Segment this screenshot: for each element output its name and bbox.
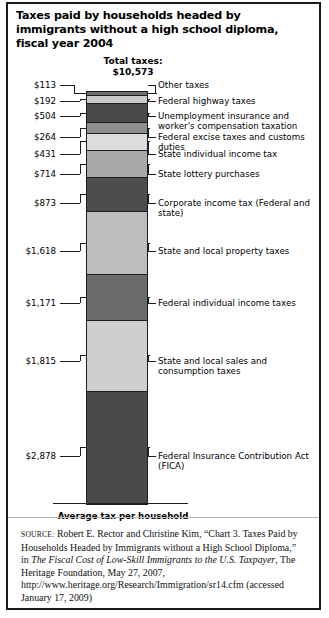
value-label: $1,618 [10, 247, 56, 256]
leader-line [148, 355, 150, 356]
bar-segment [87, 104, 147, 124]
page-title: Taxes paid by households headed by immig… [16, 9, 312, 51]
leader-line [60, 101, 80, 102]
value-label: $264 [10, 133, 56, 142]
leader-line [155, 85, 156, 93]
leader-line [80, 128, 86, 129]
value-label: $1,815 [10, 357, 56, 366]
source-note: SOURCE: Robert E. Rector and Christine K… [21, 528, 303, 605]
leader-line [80, 447, 86, 448]
bar-segment [87, 392, 147, 504]
figure-container: Taxes paid by households headed by immig… [6, 2, 321, 610]
leader-line [60, 251, 80, 252]
category-label: State individual income tax [158, 149, 320, 159]
value-label: $504 [10, 112, 56, 121]
leader-line [60, 116, 80, 117]
bar-segment [87, 96, 147, 103]
leader-line [148, 141, 149, 154]
leader-line [80, 194, 86, 195]
category-label: Other taxes [158, 80, 320, 90]
leader-line [80, 113, 86, 114]
baseline-axis [53, 503, 188, 504]
leader-line [60, 137, 80, 138]
leader-line [80, 164, 86, 165]
leader-line [60, 85, 74, 86]
value-label: $431 [10, 150, 56, 159]
source-divider [8, 517, 319, 518]
leader-line [148, 164, 150, 165]
leader-line [148, 251, 156, 252]
leader-line [80, 128, 81, 137]
leader-line [148, 154, 156, 155]
leader-line [60, 361, 80, 362]
leader-line [60, 174, 80, 175]
leader-line [80, 355, 86, 356]
category-label: Federal individual income taxes [158, 298, 320, 308]
leader-line [60, 154, 80, 155]
category-label: State lottery purchases [158, 169, 320, 179]
stacked-bar [86, 91, 148, 505]
category-label: Corporate income tax (Federal and state) [158, 198, 320, 218]
leader-line [148, 174, 156, 175]
figure-title-block: Taxes paid by households headed by immig… [16, 9, 312, 51]
leader-line [148, 164, 149, 174]
leader-line [80, 447, 81, 456]
bar-segment [87, 123, 147, 133]
source-title-italic: The Fiscal Cost of Low-Skill Immigrants … [31, 554, 275, 565]
leader-line [148, 141, 150, 142]
total-taxes-label: Total taxes: [68, 56, 198, 67]
leader-line [148, 137, 156, 138]
leader-line [80, 297, 86, 298]
leader-line [60, 456, 80, 457]
leader-line [74, 85, 75, 93]
category-label: Federal Insurance Contribution Act (FICA… [158, 451, 320, 471]
value-label: $192 [10, 97, 56, 106]
value-label: $714 [10, 170, 56, 179]
leader-line [80, 141, 81, 154]
leader-line [148, 243, 150, 244]
chart-area: Total taxes: $10,573 $113$192$504$264$43… [8, 56, 319, 506]
bar-segment [87, 151, 147, 179]
bar-segment [87, 321, 147, 392]
value-label: $1,171 [10, 299, 56, 308]
leader-line [148, 447, 149, 456]
leader-line [148, 194, 150, 195]
total-taxes-value: $10,573 [68, 67, 198, 78]
leader-line [148, 203, 156, 204]
total-taxes-callout: Total taxes: $10,573 [68, 56, 198, 78]
leader-line [74, 93, 86, 94]
bar-segment [87, 212, 147, 275]
leader-line [80, 141, 86, 142]
category-label: State and local property taxes [158, 246, 320, 256]
leader-line [148, 116, 156, 117]
leader-line [148, 93, 157, 94]
leader-line [148, 447, 150, 448]
leader-line [80, 243, 86, 244]
leader-line [148, 194, 149, 203]
bar-segment [87, 134, 147, 151]
category-label: State and local sales and consumption ta… [158, 356, 320, 376]
leader-line [148, 243, 149, 251]
leader-line [80, 99, 86, 100]
leader-line [80, 164, 81, 174]
leader-line [148, 113, 150, 114]
leader-line [148, 297, 150, 298]
value-label: $873 [10, 199, 56, 208]
category-label: Federal highway taxes [158, 96, 320, 106]
leader-line [148, 456, 156, 457]
leader-line [60, 203, 80, 204]
leader-line [80, 243, 81, 251]
axis-caption: Average tax per household [28, 511, 218, 521]
value-label: $113 [10, 81, 56, 90]
value-label: $2,878 [10, 452, 56, 461]
bar-segment [87, 178, 147, 212]
leader-line [148, 99, 150, 100]
leader-line [148, 128, 150, 129]
leader-line [80, 194, 81, 203]
leader-line [148, 361, 156, 362]
leader-line [148, 128, 149, 137]
leader-line [148, 101, 156, 102]
bar-segment [87, 275, 147, 321]
leader-line [148, 303, 156, 304]
category-label: Unemployment insurance and worker's comp… [158, 111, 320, 131]
